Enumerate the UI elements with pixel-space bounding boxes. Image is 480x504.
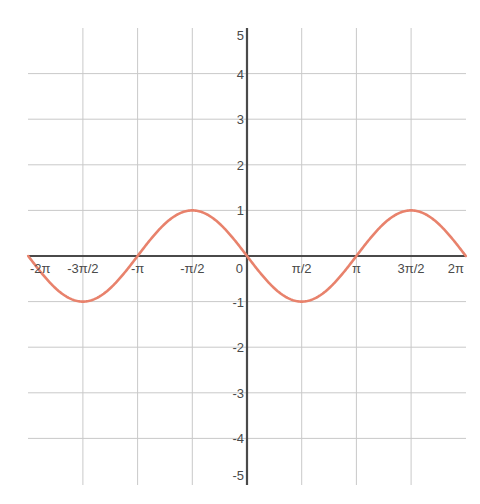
x-tick-label: 0	[236, 261, 243, 276]
y-tick-label: -3	[232, 386, 244, 401]
y-tick-label: -4	[232, 431, 244, 446]
sine-chart: -2π-3π/2-π-π/20π/2π3π/22π 54321-1-2-3-4-…	[0, 0, 480, 504]
x-tick-label: π	[352, 261, 361, 276]
x-tick-label: -π	[131, 261, 144, 276]
y-tick-label: 2	[237, 158, 244, 173]
y-tick-label: 3	[237, 112, 244, 127]
y-tick-label: -2	[232, 340, 244, 355]
y-tick-label: 5	[237, 28, 244, 43]
x-tick-label: 2π	[448, 261, 464, 276]
x-tick-label: 3π/2	[398, 261, 425, 276]
y-tick-label: 4	[237, 67, 244, 82]
y-tick-label: -1	[232, 295, 244, 310]
x-tick-label: -π/2	[180, 261, 204, 276]
x-tick-label: π/2	[292, 261, 312, 276]
y-tick-label: 1	[237, 203, 244, 218]
x-tick-label: -3π/2	[67, 261, 98, 276]
y-tick-label: -5	[232, 468, 244, 483]
x-tick-label: -2π	[30, 261, 51, 276]
